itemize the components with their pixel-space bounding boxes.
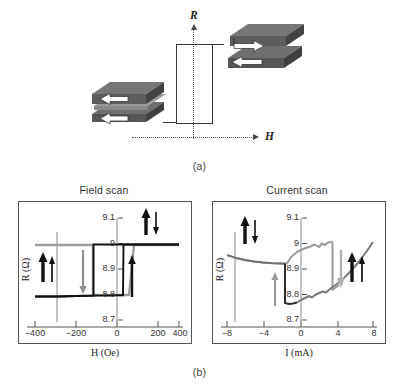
current-scan-x-axis-title: I (mA) — [212, 347, 386, 358]
current-scan-title: Current scan — [207, 184, 387, 196]
panel-a-label: (a) — [0, 160, 399, 172]
h-axis-dotted-line — [132, 137, 254, 138]
figure-magnetoresistance: R H — [0, 0, 399, 387]
current-scan-ytick-8-7: 8.7 — [265, 314, 299, 324]
current-scan-xtick-8: 8 — [366, 328, 382, 338]
field-scan-y-axis-title: R (Ω) — [20, 247, 31, 293]
field-scan-xtick-0: 0 — [108, 328, 126, 338]
field-scan-ytick-9: 9 — [81, 238, 115, 248]
current-scan-xtick-0: 0 — [293, 328, 309, 338]
field-scan-ytick-9-1: 9.1 — [81, 212, 115, 222]
field-scan-xtick-neg200: −200 — [63, 328, 89, 338]
loop-upper-extension — [211, 44, 224, 45]
field-scan-antiparallel-arrows — [142, 208, 160, 235]
current-scan-y-axis-title: R (Ω) — [214, 247, 225, 293]
panel-b-label: (b) — [0, 366, 399, 378]
current-scan-ytick-8-8: 8.8 — [265, 289, 299, 299]
schematic-y-axis-label: R — [190, 9, 198, 21]
field-scan-ytick-8-8: 8.8 — [81, 289, 115, 299]
current-scan-xtick-neg8: −8 — [217, 328, 237, 338]
current-scan-xtick-neg4: −4 — [254, 328, 274, 338]
current-scan-svg — [213, 202, 385, 343]
current-scan-ytick-9-1: 9.1 — [265, 212, 299, 222]
panel-a-schematic: R H — [0, 0, 399, 178]
field-scan-xtick-neg400: −400 — [22, 328, 48, 338]
panel-b-charts: Field scan — [0, 180, 399, 387]
field-scan-ytick-8-9: 8.9 — [81, 263, 115, 273]
field-scan-title: Field scan — [14, 184, 194, 196]
current-scan-plot-frame: 9.1 9 8.9 8.8 8.7 −8 −4 0 4 8 — [212, 201, 386, 344]
field-scan-xtick-200: 200 — [146, 328, 170, 338]
current-scan-ytick-9: 9 — [265, 238, 299, 248]
field-scan-plot-frame: 9.1 9 8.9 8.8 8.7 −400 −200 0 200 400 — [18, 201, 192, 344]
current-scan-antiparallel-arrows — [241, 216, 259, 244]
field-scan-ytick-8-7: 8.7 — [81, 314, 115, 324]
current-scan-xtick-4: 4 — [330, 328, 346, 338]
schematic-hysteresis-loop — [176, 44, 213, 124]
h-axis-arrowhead — [253, 134, 259, 140]
field-scan-x-axis-title: H (Oe) — [18, 347, 192, 358]
field-scan-parallel-arrows — [39, 252, 56, 282]
current-scan-ytick-8-9: 8.9 — [265, 263, 299, 273]
schematic-x-axis-label: H — [265, 130, 274, 142]
field-scan-xtick-400: 400 — [168, 328, 192, 338]
layer-stack-parallel — [88, 68, 168, 130]
layer-stack-antiparallel — [224, 14, 308, 80]
